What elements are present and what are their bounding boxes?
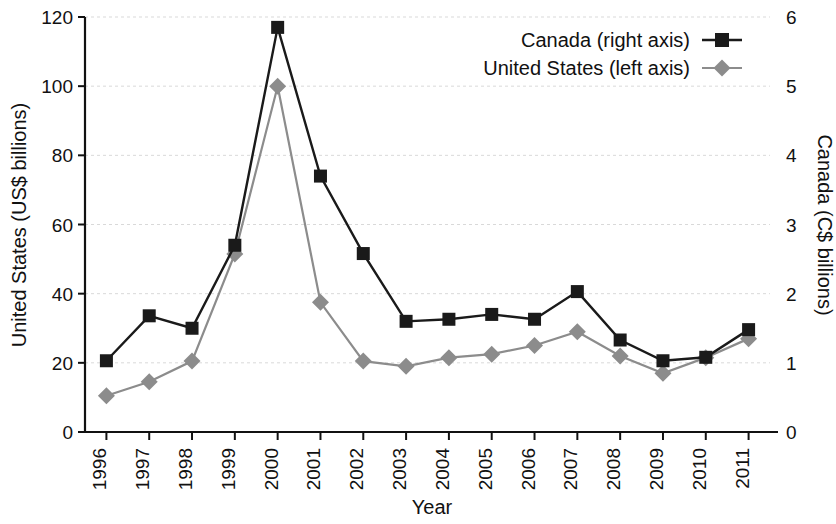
right-axis-tick-label: 5 [786,76,797,97]
data-point-marker [654,365,671,382]
x-axis-tick-label: 2010 [689,448,710,490]
legend-item[interactable]: United States (left axis) [483,57,742,79]
x-axis-tick-label: 1997 [132,448,153,490]
legend-marker-swatch [714,60,731,77]
data-point-marker [569,323,586,340]
legend: Canada (right axis)United States (left a… [483,29,742,79]
chart-figure: 020406080100120 0123456 1996199719981999… [0,0,836,524]
left-axis-tick-label: 60 [52,215,73,236]
right-axis-tick-label: 3 [786,215,797,236]
x-axis-tick-label: 1996 [89,448,110,490]
data-point-marker [442,313,455,326]
x-axis-tick-label: 1998 [175,448,196,490]
right-axis-tick-label: 4 [786,145,797,166]
data-point-marker [184,353,201,370]
x-axis-tick-label: 1999 [218,448,239,490]
x-axis-tick-label: 2005 [475,448,496,490]
right-axis-tick-label: 6 [786,7,797,28]
data-point-marker [612,347,629,364]
right-axis-tick-label: 0 [786,422,797,443]
x-axis-tick-label: 2006 [518,448,539,490]
data-point-marker [483,346,500,363]
x-axis-tick-label: 2002 [346,448,367,490]
data-point-marker [357,247,370,260]
data-point-marker [314,170,327,183]
data-point-marker [269,78,286,95]
left-axis-tick-label: 80 [52,145,73,166]
data-point-marker [100,354,113,367]
right-axis-ticklabels: 0123456 [786,7,797,443]
right-axis-tick-label: 1 [786,353,797,374]
x-axis-tick-label: 2009 [646,448,667,490]
left-axis-title: United States (US$ billions) [8,103,30,348]
data-point-marker [228,239,241,252]
data-point-marker [143,309,156,322]
data-point-marker [742,323,755,336]
left-axis-ticklabels: 020406080100120 [41,7,73,443]
legend-item[interactable]: Canada (right axis) [521,29,742,51]
left-axis-tick-label: 20 [52,353,73,374]
x-axis-ticklabels: 1996199719981999200020012002200320042005… [89,448,752,491]
x-axis-tick-label: 2011 [732,448,753,489]
data-point-marker [614,334,627,347]
x-axis-title: Year [412,496,453,518]
data-point-marker [141,373,158,390]
legend-item-label: Canada (right axis) [521,29,690,51]
x-axis-tick-label: 2004 [432,448,453,491]
x-axis-tick-label: 2008 [603,448,624,490]
data-point-marker [526,337,543,354]
data-point-marker [312,294,329,311]
right-axis-tick-label: 2 [786,284,797,305]
left-axis-tick-label: 120 [41,7,73,28]
x-axis-tick-label: 2003 [389,448,410,490]
x-axis-tick-label: 2001 [303,448,324,490]
data-point-marker [400,315,413,328]
data-point-marker [98,387,115,404]
series-line [106,86,748,396]
data-point-marker [571,285,584,298]
axis-group [78,17,778,440]
data-point-marker [440,349,457,366]
legend-marker-swatch [715,33,729,47]
left-axis-tick-label: 40 [52,284,73,305]
x-axis-tick-label: 2000 [261,448,282,490]
data-point-marker [271,21,284,34]
data-point-marker [355,353,372,370]
data-point-marker [528,313,541,326]
data-point-marker [485,308,498,321]
left-axis-tick-label: 100 [41,76,73,97]
dual-axis-line-chart: 020406080100120 0123456 1996199719981999… [0,0,836,524]
data-point-marker [656,354,669,367]
right-axis-title: Canada (C$ billions) [814,134,836,315]
x-axis-tick-label: 2007 [560,448,581,490]
data-point-marker [699,351,712,364]
data-point-marker [398,358,415,375]
left-axis-tick-label: 0 [62,422,73,443]
legend-item-label: United States (left axis) [483,57,690,79]
data-point-marker [186,322,199,335]
